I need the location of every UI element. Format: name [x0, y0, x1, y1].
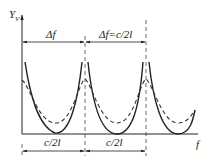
solid-curve — [25, 62, 195, 134]
y-axis-subscript: V — [15, 15, 20, 23]
top-dimension-left-label: Δf — [45, 28, 57, 40]
x-axis-label: f — [196, 138, 201, 150]
periodic-response-diagram: Y V f Δf Δf=c/2l c/2l c/2l — [0, 0, 216, 166]
top-dimension-right-label: Δf=c/2l — [98, 28, 132, 40]
dashed-curve — [22, 79, 195, 123]
bottom-dimension-right-label: c/2l — [106, 136, 123, 148]
bottom-dimension-left-label: c/2l — [44, 136, 61, 148]
